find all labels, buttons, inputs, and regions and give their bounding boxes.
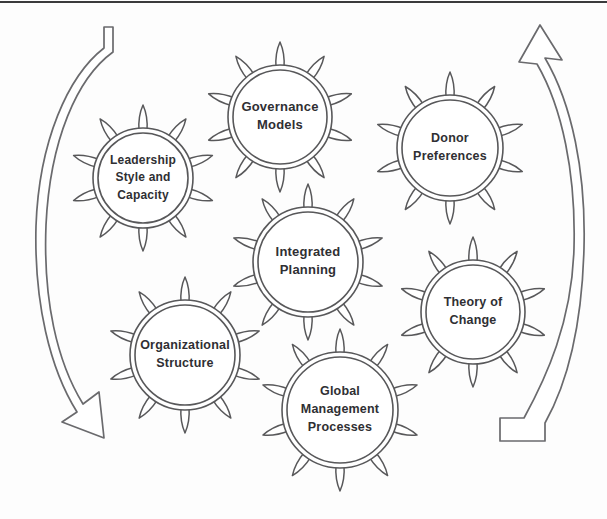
- node-label-line: Integrated: [276, 244, 341, 259]
- node-label-line: Structure: [156, 356, 213, 370]
- diagram-canvas: GovernanceModelsLeadershipStyle andCapac…: [0, 0, 607, 519]
- node-label-line: Change: [449, 313, 496, 327]
- node-inner-ring: [402, 100, 498, 196]
- cycle-diagram-svg: GovernanceModelsLeadershipStyle andCapac…: [0, 0, 607, 519]
- node-label-line: Leadership: [110, 153, 176, 167]
- node-organizational-structure[interactable]: OrganizationalStructure: [110, 277, 261, 433]
- right-cycle-arrow: [500, 25, 584, 441]
- node-inner-ring: [426, 265, 520, 359]
- node-label-line: Organizational: [140, 338, 230, 352]
- node-label-line: Preferences: [413, 149, 487, 163]
- node-governance-models[interactable]: GovernanceModels: [207, 42, 352, 192]
- nodes-layer: GovernanceModelsLeadershipStyle andCapac…: [72, 42, 545, 491]
- node-label-line: Planning: [280, 263, 337, 278]
- node-inner-ring: [135, 305, 235, 405]
- node-leadership-style-and-capacity[interactable]: LeadershipStyle andCapacity: [72, 105, 213, 251]
- node-integrated-planning[interactable]: IntegratedPlanning: [233, 184, 384, 340]
- node-label-line: Models: [257, 118, 303, 133]
- node-label-line: Management: [301, 402, 380, 416]
- node-donor-preferences[interactable]: DonorPreferences: [376, 72, 523, 224]
- node-label-line: Global: [320, 384, 360, 398]
- node-label-line: Capacity: [117, 188, 169, 202]
- node-theory-of-change[interactable]: Theory ofChange: [400, 237, 545, 387]
- node-global-management-processes[interactable]: GlobalManagementProcesses: [262, 329, 419, 491]
- node-label-line: Style and: [115, 170, 170, 184]
- node-label-line: Governance: [241, 99, 318, 114]
- node-label-line: Theory of: [444, 295, 503, 309]
- node-label-line: Processes: [308, 420, 372, 434]
- node-label-line: Donor: [431, 131, 469, 145]
- node-label: LeadershipStyle andCapacity: [110, 153, 176, 202]
